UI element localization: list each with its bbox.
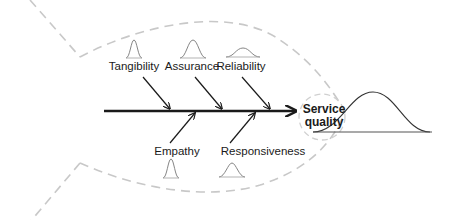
arrow-reliability [242, 77, 270, 109]
effect-label-line1: Service [303, 103, 346, 116]
bell-reliability-icon [226, 48, 260, 57]
tail-top-line [30, 0, 80, 57]
bell-responsiveness-icon [219, 163, 245, 177]
bell-empathy-icon [163, 159, 179, 178]
arrow-tangibility [143, 77, 170, 109]
fishbone-diagram [0, 0, 453, 220]
arrow-responsiveness [230, 113, 255, 143]
cause-label-empathy: Empathy [154, 146, 199, 158]
bell-assurance-icon [180, 40, 206, 58]
effect-label: Service quality [303, 103, 346, 128]
tail-bottom-line [30, 163, 80, 220]
cause-label-tangibility: Tangibility [109, 61, 160, 73]
cause-label-assurance: Assurance [165, 61, 219, 73]
bell-tangibility-icon [126, 40, 142, 58]
arrow-assurance [195, 77, 222, 109]
cause-label-responsiveness: Responsiveness [221, 146, 305, 158]
effect-label-line2: quality [303, 116, 346, 129]
cause-label-reliability: Reliability [216, 61, 265, 73]
arrow-empathy [170, 113, 195, 143]
